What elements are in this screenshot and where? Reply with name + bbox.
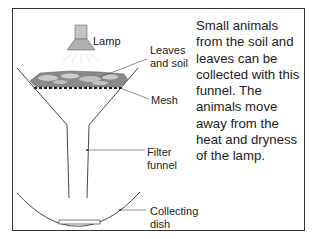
- description-text: Small animals from the soil and leaves c…: [196, 18, 304, 165]
- funnel-label-line2: funnel: [147, 159, 177, 172]
- mesh-label: Mesh: [151, 94, 178, 107]
- dish-label-line2: dish: [150, 218, 198, 231]
- filter-funnel-label: Filter funnel: [147, 146, 177, 172]
- leaves-and-soil-label: Leaves and soil: [150, 44, 188, 70]
- leaves-and-soil-icon: [30, 71, 128, 87]
- lamp-label: Lamp: [93, 35, 121, 48]
- leaves-label-line1: Leaves: [150, 44, 188, 57]
- leaves-label-line2: and soil: [150, 57, 188, 70]
- collecting-dish-icon: [17, 192, 140, 226]
- funnel-label-line1: Filter: [147, 146, 177, 159]
- dish-label-line1: Collecting: [150, 205, 198, 218]
- collecting-dish-label: Collecting dish: [150, 205, 198, 231]
